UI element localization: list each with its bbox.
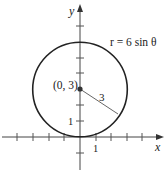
y-axis-label: y	[68, 4, 75, 18]
y-axis-arrow-icon	[77, 4, 83, 12]
x-axis-label: x	[154, 140, 161, 154]
radius-label: 3	[99, 91, 105, 103]
center-label: (0, 3)	[53, 79, 78, 92]
x-tick-label-1: 1	[93, 143, 98, 154]
polar-diagram: y x r = 6 sin θ (0, 3) 3 1 1	[0, 0, 168, 173]
equation-label: r = 6 sin θ	[110, 36, 157, 48]
y-tick-label-1: 1	[68, 116, 73, 127]
center-point	[77, 86, 82, 91]
